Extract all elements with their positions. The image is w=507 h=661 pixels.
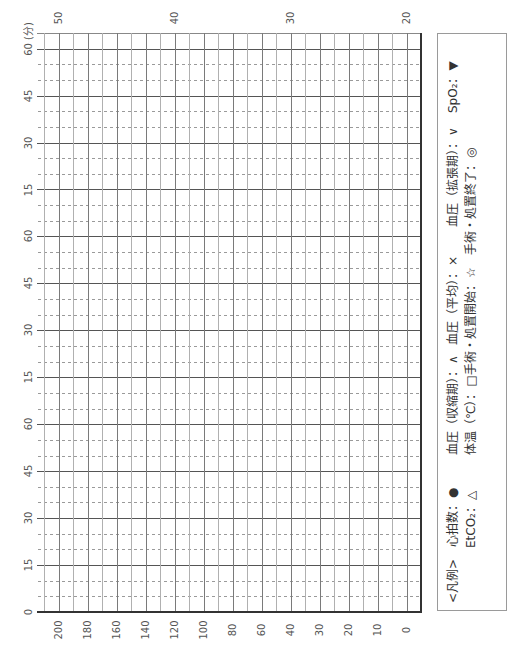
value-tick-label: 40 — [285, 624, 297, 637]
time-tick-label: 15 — [23, 371, 35, 384]
value-tick-label: 120 — [169, 620, 181, 639]
time-tick-label: 30 — [23, 324, 35, 337]
legend-item-procedure-start: 手術・処置開始：☆ — [464, 267, 478, 375]
legend-separator: ： — [464, 159, 478, 171]
value-tick-label: 20 — [343, 624, 355, 637]
legend-item-bp-systolic: 血圧（収縮期）：∧ — [446, 355, 460, 455]
filled-circle-icon: ● — [446, 488, 460, 498]
legend-item-procedure-end: 手術・処置終了：◎ — [464, 148, 478, 255]
legend-item-etco2: EtCO₂：△ — [464, 491, 478, 548]
legend-separator: ： — [464, 388, 478, 400]
temp-tick-label: 40 — [169, 12, 181, 25]
time-tick-label: 45 — [23, 465, 35, 478]
time-tick-label: 30 — [23, 136, 35, 149]
legend-separator: ： — [464, 501, 478, 513]
legend-separator: ： — [446, 499, 460, 511]
filled-triangle-down-icon: ▼ — [446, 61, 460, 70]
value-tick-label: 0 — [401, 627, 413, 633]
double-circle-icon: ◎ — [464, 148, 478, 158]
value-tick-label: 180 — [82, 620, 94, 639]
legend-separator: ： — [446, 365, 460, 377]
legend-label: 体温（℃） — [464, 400, 478, 455]
value-tick-label: 60 — [256, 624, 268, 637]
value-tick-label: 80 — [227, 624, 239, 637]
value-tick-label: 10 — [372, 624, 384, 637]
legend-title: <凡例> — [446, 559, 460, 603]
value-tick-label: 140 — [140, 620, 152, 639]
time-tick-label: 15 — [23, 183, 35, 196]
time-tick-label: 0 — [23, 609, 35, 615]
legend-separator: ： — [446, 72, 460, 84]
temp-tick-label: 30 — [285, 12, 297, 25]
caret-up-icon: ∧ — [446, 355, 460, 364]
legend-item-heart-rate: 心拍数：● — [446, 488, 460, 547]
time-tick-label: 60 — [23, 418, 35, 431]
star-outline-icon: ☆ — [464, 267, 478, 278]
legend-label: 血圧（平均） — [446, 279, 460, 345]
cross-icon: × — [446, 256, 460, 266]
time-tick-label: 45 — [23, 277, 35, 290]
legend: <凡例> 心拍数：● 血圧（収縮期）：∧ 血圧（平均）：× 血圧（拡張期）：∨ … — [437, 33, 481, 612]
triangle-outline-icon: △ — [464, 491, 478, 500]
legend-label: 手術・処置終了 — [464, 171, 478, 255]
legend-item-bp-diastolic: 血圧（拡張期）：∨ — [446, 127, 460, 227]
legend-label: EtCO₂ — [464, 513, 478, 548]
caret-down-icon: ∨ — [446, 127, 460, 136]
time-tick-label: 60 (分) — [23, 22, 35, 56]
legend-label: 血圧（拡張期） — [446, 149, 460, 227]
time-tick-label: 45 — [23, 89, 35, 102]
legend-label: 血圧（収縮期） — [446, 377, 460, 455]
legend-item-spo2: SpO₂：▼ — [446, 61, 460, 113]
time-tick-label: 30 — [23, 512, 35, 525]
legend-separator: ： — [446, 267, 460, 279]
temp-tick-label: 20 — [401, 12, 413, 25]
legend-label: SpO₂ — [446, 84, 460, 114]
value-tick-label: 160 — [111, 620, 123, 639]
value-tick-label: 100 — [198, 620, 210, 639]
temp-tick-label: 50 — [53, 12, 65, 25]
legend-separator: ： — [464, 279, 478, 291]
legend-label: 手術・処置開始 — [464, 291, 478, 375]
time-tick-label: 15 — [23, 559, 35, 572]
legend-separator: ： — [446, 137, 460, 149]
legend-item-temperature: 体温（℃）：□ — [464, 375, 478, 455]
square-outline-icon: □ — [464, 375, 478, 386]
value-tick-label: 30 — [314, 624, 326, 637]
time-tick-label: 60 — [23, 230, 35, 243]
value-tick-label: 200 — [53, 620, 65, 639]
legend-label: 心拍数 — [446, 511, 460, 547]
legend-item-bp-mean: 血圧（平均）：× — [446, 256, 460, 345]
